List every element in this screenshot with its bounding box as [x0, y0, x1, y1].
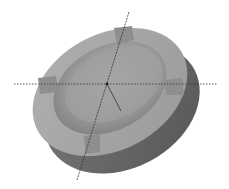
notch-left	[38, 76, 58, 94]
origin-point	[106, 83, 109, 86]
notch-right	[164, 78, 184, 95]
notch-bottom	[84, 134, 100, 154]
viewport	[0, 0, 229, 189]
ashtray-render	[0, 0, 229, 189]
